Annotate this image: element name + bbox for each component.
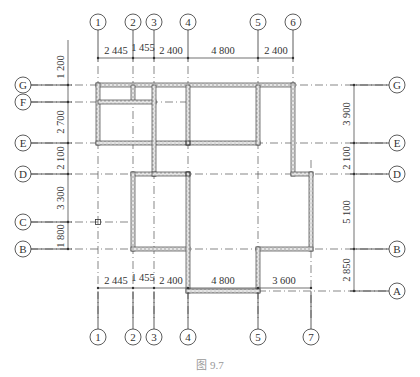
axis-6-top: 6: [290, 16, 296, 28]
dim-left-5: 1 800: [55, 224, 66, 248]
axis-G-right: G: [393, 79, 401, 91]
dim-bottom-2: 1 455: [131, 272, 155, 283]
axis-F-left: F: [20, 96, 26, 108]
axis-D-right: D: [393, 168, 401, 180]
dim-left-3: 2 100: [55, 146, 66, 170]
dim-bottom-1: 2 445: [104, 275, 128, 286]
axis-3-top: 3: [151, 16, 157, 28]
axis-G-left: G: [19, 79, 27, 91]
dim-left-2: 2 700: [55, 110, 66, 134]
axis-4-top: 4: [185, 16, 191, 28]
dim-right-3: 5 100: [341, 200, 352, 224]
top-dimensions: 2 445 1 455 2 400 4 800 2 400: [104, 42, 288, 56]
axis-C-left: C: [19, 216, 26, 228]
dim-bottom-4: 4 800: [211, 275, 235, 286]
axis-1-bottom: 1: [95, 331, 101, 343]
right-axis-bubbles: [350, 77, 405, 299]
walls: [96, 83, 313, 293]
dim-top-4: 4 800: [211, 45, 235, 56]
floor-plan-drawing: 2 445 1 455 2 400 4 800 2 400 2 445 1 45…: [0, 0, 420, 377]
dim-right-4: 2 850: [341, 258, 352, 282]
axis-B-right: B: [393, 243, 400, 255]
dim-top-5: 2 400: [264, 45, 288, 56]
axis-5-top: 5: [255, 16, 261, 28]
axis-2-bottom: 2: [130, 331, 136, 343]
dim-right-1: 3 900: [341, 102, 352, 126]
dim-bottom-3: 2 400: [159, 275, 183, 286]
dim-left-4: 3 300: [55, 186, 66, 210]
right-axis-labels: G E D B A: [393, 79, 401, 297]
dim-right-2: 2 100: [341, 146, 352, 170]
column-markers: [96, 141, 191, 225]
right-dimensions: 3 900 2 100 5 100 2 850: [341, 102, 352, 282]
dim-left-1: 1 200: [55, 55, 66, 79]
figure-caption: 图 9.7: [0, 356, 420, 372]
dim-bottom-5: 3 600: [272, 275, 296, 286]
axis-3-bottom: 3: [151, 331, 157, 343]
dim-top-2: 1 455: [131, 42, 155, 53]
axis-E-left: E: [20, 137, 27, 149]
grid-lines: [30, 66, 390, 320]
axis-7-bottom: 7: [308, 331, 314, 343]
axis-4-bottom: 4: [185, 331, 191, 343]
left-dimensions: 1 200 2 700 2 100 3 300 1 800: [55, 55, 66, 248]
axis-D-left: D: [19, 168, 27, 180]
dim-top-3: 2 400: [159, 45, 183, 56]
axis-2-top: 2: [130, 16, 136, 28]
axis-1-top: 1: [95, 16, 101, 28]
axis-5-bottom: 5: [255, 331, 261, 343]
bottom-axis-bubbles: [90, 292, 319, 345]
dim-top-1: 2 445: [104, 45, 128, 56]
axis-A-right: A: [393, 285, 401, 297]
axis-B-left: B: [19, 243, 26, 255]
axis-E-right: E: [394, 137, 401, 149]
